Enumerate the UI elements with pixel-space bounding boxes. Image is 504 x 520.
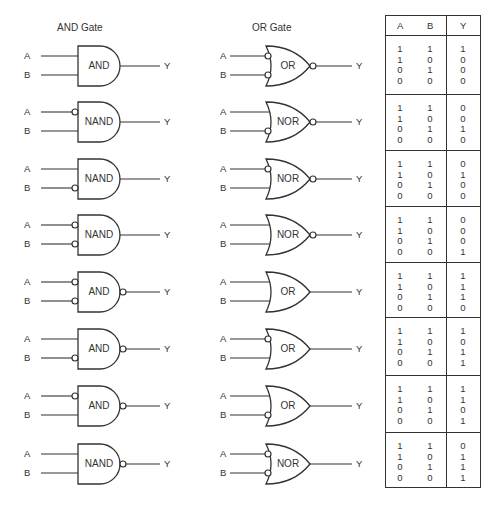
input-b-label: B: [24, 238, 30, 249]
gate-type-label: OR: [270, 60, 306, 71]
or-column-title: OR Gate: [252, 22, 291, 33]
input-a-label: A: [220, 50, 226, 61]
output-y-label: Y: [356, 343, 362, 354]
input-b-label: B: [24, 467, 30, 478]
input-a-inversion-bubble-icon: [72, 393, 78, 399]
truth-table: A B Y 1100101010001100101000101100101001…: [385, 15, 481, 488]
output-y-label: Y: [356, 286, 362, 297]
input-b-label: B: [24, 409, 30, 420]
and-column-gate-5: ABYAND: [20, 270, 200, 310]
column-b-values: 1010: [425, 44, 435, 86]
input-a-label: A: [24, 390, 30, 401]
column-b-values: 1010: [425, 103, 435, 145]
input-a-label: A: [24, 448, 30, 459]
gate-type-label: OR: [270, 343, 306, 354]
column-y-values: 1011: [458, 326, 468, 368]
input-b-label: B: [220, 409, 226, 420]
gate-type-label: NOR: [270, 173, 306, 184]
input-b-inversion-bubble-icon: [72, 298, 78, 304]
output-inversion-bubble-icon: [120, 461, 126, 467]
column-a-values: 1100: [395, 441, 405, 483]
input-a-label: A: [24, 163, 30, 174]
column-y-values: 1101: [458, 384, 468, 426]
output-y-label: Y: [356, 173, 362, 184]
input-b-label: B: [24, 295, 30, 306]
column-a-values: 1100: [395, 271, 405, 313]
gate-type-label: NAND: [79, 116, 119, 127]
and-column-gate-1: ABYAND: [20, 44, 200, 84]
output-y-label: Y: [164, 458, 170, 469]
truth-table-block-7: 110010101101: [386, 376, 480, 433]
output-inversion-bubble-icon: [310, 119, 316, 125]
gate-type-label: NAND: [79, 458, 119, 469]
input-a-label: A: [220, 390, 226, 401]
input-a-inversion-bubble-icon: [265, 451, 271, 457]
truth-table-block-5: 110010101110: [386, 263, 480, 318]
output-inversion-bubble-icon: [310, 63, 316, 69]
input-a-label: A: [220, 276, 226, 287]
column-a-values: 1100: [395, 384, 405, 426]
or-column-gate-7: ABYOR: [212, 384, 392, 424]
output-y-label: Y: [356, 116, 362, 127]
and-column-title: AND Gate: [57, 22, 103, 33]
column-b-values: 1010: [425, 384, 435, 426]
output-y-label: Y: [356, 229, 362, 240]
column-y-values: 0010: [458, 103, 468, 145]
output-y-label: Y: [164, 286, 170, 297]
input-a-inversion-bubble-icon: [72, 109, 78, 115]
header-a: A: [397, 20, 403, 31]
output-y-label: Y: [164, 229, 170, 240]
output-y-label: Y: [356, 60, 362, 71]
input-a-inversion-bubble-icon: [265, 336, 271, 342]
or-column-gate-8: ABYNOR: [212, 442, 392, 482]
input-a-label: A: [24, 333, 30, 344]
gate-type-label: NOR: [270, 229, 306, 240]
input-b-label: B: [220, 467, 226, 478]
input-b-label: B: [220, 125, 226, 136]
input-b-inversion-bubble-icon: [265, 470, 271, 476]
input-a-label: A: [24, 106, 30, 117]
column-b-values: 1010: [425, 326, 435, 368]
output-inversion-bubble-icon: [120, 289, 126, 295]
output-y-label: Y: [356, 400, 362, 411]
input-b-label: B: [24, 125, 30, 136]
output-inversion-bubble-icon: [310, 232, 316, 238]
gate-type-label: NOR: [270, 458, 306, 469]
input-a-label: A: [220, 219, 226, 230]
column-b-values: 1010: [425, 271, 435, 313]
input-b-label: B: [220, 238, 226, 249]
gate-type-label: AND: [79, 60, 119, 71]
truth-table-divider: [446, 16, 447, 487]
or-column-gate-3: ABYNOR: [212, 157, 392, 197]
column-b-values: 1010: [425, 441, 435, 483]
output-inversion-bubble-icon: [120, 346, 126, 352]
and-column-gate-6: ABYAND: [20, 327, 200, 367]
input-b-label: B: [24, 182, 30, 193]
or-column-gate-6: ABYOR: [212, 327, 392, 367]
column-y-values: 1000: [458, 44, 468, 86]
column-y-values: 0111: [458, 441, 468, 483]
input-b-label: B: [220, 352, 226, 363]
input-b-inversion-bubble-icon: [265, 412, 271, 418]
output-y-label: Y: [164, 116, 170, 127]
input-b-label: B: [220, 182, 226, 193]
input-a-label: A: [24, 219, 30, 230]
header-b: B: [427, 20, 433, 31]
input-a-inversion-bubble-icon: [265, 166, 271, 172]
truth-table-block-4: 110010100001: [386, 207, 480, 263]
truth-table-block-6: 110010101011: [386, 318, 480, 376]
input-b-label: B: [24, 69, 30, 80]
input-b-inversion-bubble-icon: [72, 241, 78, 247]
output-inversion-bubble-icon: [310, 176, 316, 182]
and-column-gate-2: ABYNAND: [20, 100, 200, 140]
input-b-inversion-bubble-icon: [265, 72, 271, 78]
column-y-values: 1110: [458, 271, 468, 313]
gate-type-label: AND: [79, 400, 119, 411]
input-a-label: A: [24, 50, 30, 61]
or-column-gate-1: ABYOR: [212, 44, 392, 84]
output-y-label: Y: [164, 400, 170, 411]
and-column-gate-7: ABYAND: [20, 384, 200, 424]
input-a-label: A: [24, 276, 30, 287]
truth-table-header: A B Y: [386, 16, 480, 36]
truth-table-block-8: 110010100111: [386, 433, 480, 487]
